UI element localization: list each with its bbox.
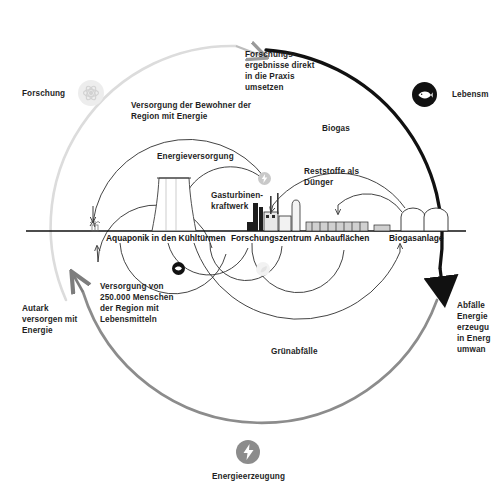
label-versorgung-bewohner: Versorgung der Bewohner der Region mit E… [131,100,251,122]
fish-small-icon [172,262,185,275]
ground-label-aquaponik: Aquaponik in den Kühltürmen [106,233,226,243]
label-biogas: Biogas [322,123,350,134]
ground-label-biogasanlage: Biogasanlage [389,233,443,243]
cooling-towers-illustration [152,178,196,231]
lightning-small-glyph [261,174,268,183]
label-gruenabfaelle: Grünabfälle [271,346,318,357]
label-lebensmittel: Lebensm [452,89,489,100]
fish-glyph [417,89,433,101]
leaf-faint-icon [256,262,270,276]
label-gasturbinenkraftwerk: Gasturbinen- kraftwerk [211,190,263,212]
ground-label-forschungszentrum: Forschungszentrum [231,233,312,243]
leaf-faint-glyph [259,265,268,274]
ground-label-anbauflaechen: Anbauflächen [314,233,369,243]
atom-glyph [81,83,101,103]
label-reststoffe: Reststoffe als Dünger [304,166,359,188]
label-forschung: Forschung [22,88,65,99]
atom-icon [78,80,104,106]
label-autark: Autark versorgen mit Energie [22,303,77,336]
fish-small-glyph [174,265,183,272]
label-abfaelle: Abfälle Energie erzeugu in Energ umwan [457,300,491,355]
label-energieerzeugung: Energieerzeugung [212,471,285,482]
greenhouse-illustration [306,222,390,231]
aquaponik-illustration [90,221,100,231]
label-energieversorgung: Energieversorgung [157,151,234,162]
diagram-canvas: Forschung Lebensm Abfälle Energie erzeug… [0,0,492,486]
fish-icon [412,82,437,107]
label-forschungsergebnisse: Forschungs- ergebnisse direkt in die Pra… [245,49,315,93]
biogas-tanks-illustration [401,208,448,231]
lightning-icon [236,440,260,464]
lightning-small-icon [258,172,271,185]
label-versorgung-menschen: Versorgung von 250.000 Menschen der Regi… [100,281,174,325]
lightning-glyph [242,444,255,460]
